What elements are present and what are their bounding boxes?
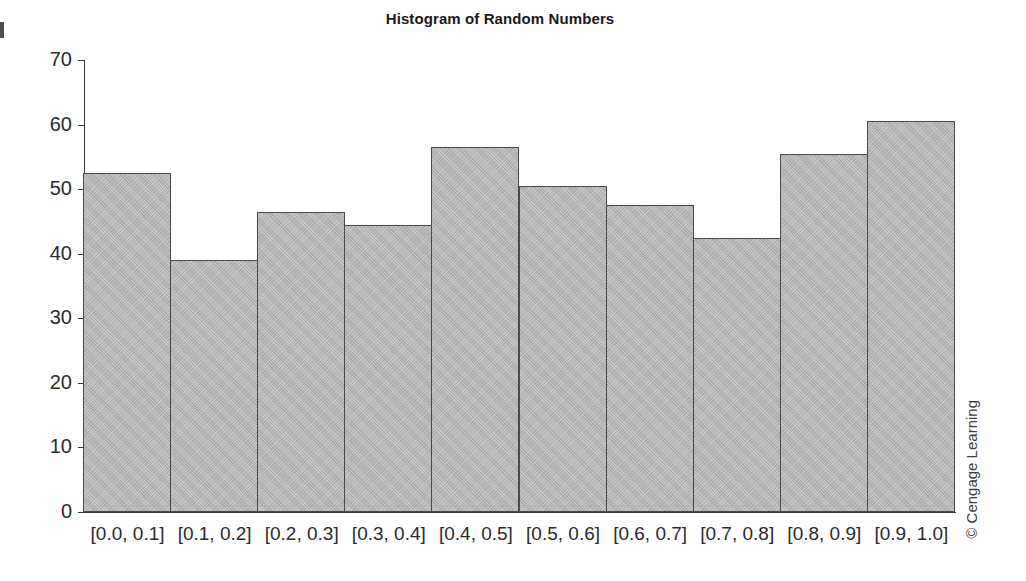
histogram-bar xyxy=(431,147,519,512)
x-axis-tick-label: [0.7, 0.8] xyxy=(694,523,781,545)
x-axis-tick-label: [0.4, 0.5] xyxy=(432,523,519,545)
x-axis-tick-label: [0.1, 0.2] xyxy=(171,523,258,545)
x-axis-tick-label: [0.3, 0.4] xyxy=(345,523,432,545)
y-axis-tick-label-text: 10 xyxy=(24,436,72,456)
copyright-credit: © Cengage Learning xyxy=(964,400,980,539)
x-axis-tick-label: [0.6, 0.7] xyxy=(607,523,694,545)
y-axis-tick-label-text: 20 xyxy=(24,372,72,392)
y-axis-tick-label: 30 xyxy=(14,307,72,327)
y-axis-tick-label-text: 0 xyxy=(24,501,72,521)
histogram-bar xyxy=(170,260,258,512)
histogram-bar xyxy=(83,173,171,512)
y-axis-tick-label-text: 50 xyxy=(24,178,72,198)
y-axis-tick-label: 20 xyxy=(14,372,72,392)
page-title: Histogram of Random Numbers xyxy=(0,10,1000,27)
y-axis-tick-label-text: 30 xyxy=(24,307,72,327)
plot-area xyxy=(84,60,955,512)
y-axis-tick-label-text: 70 xyxy=(24,49,72,69)
y-axis-tick-label: 50 xyxy=(14,178,72,198)
x-axis-line xyxy=(84,512,956,513)
histogram-bar xyxy=(344,225,432,512)
histogram-bar xyxy=(257,212,345,512)
y-axis-tick xyxy=(78,512,85,513)
histogram-bar xyxy=(519,186,607,512)
histogram-figure: Histogram of Random Numbers 010203040506… xyxy=(0,0,1026,581)
x-axis-tick-label: [0.9, 1.0] xyxy=(868,523,955,545)
y-axis-tick-label: 70 xyxy=(14,49,72,69)
x-axis-tick-label: [0.0, 0.1] xyxy=(84,523,171,545)
y-axis-tick-label-text: 60 xyxy=(24,114,72,134)
histogram-bar xyxy=(606,205,694,512)
histogram-bar xyxy=(780,154,868,512)
y-axis-tick-label: 10 xyxy=(14,436,72,456)
x-axis-tick-label: [0.5, 0.6] xyxy=(520,523,607,545)
x-axis-tick-label: [0.8, 0.9] xyxy=(781,523,868,545)
y-axis-tick-label: 60 xyxy=(14,114,72,134)
y-axis-tick-label: 0 xyxy=(14,501,72,521)
y-axis-tick-label: 40 xyxy=(14,243,72,263)
histogram-bar xyxy=(693,238,781,512)
y-axis-tick-label-text: 40 xyxy=(24,243,72,263)
histogram-bar xyxy=(867,121,955,512)
x-axis-tick-label: [0.2, 0.3] xyxy=(258,523,345,545)
